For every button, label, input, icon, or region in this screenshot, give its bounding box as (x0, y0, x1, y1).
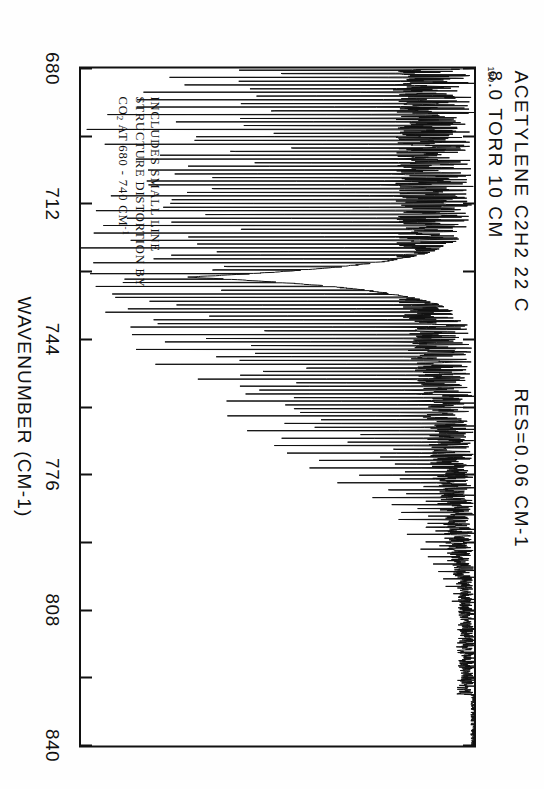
x-axis-tick (79, 541, 92, 543)
x-axis-tick (79, 473, 92, 475)
x-axis-tick (79, 135, 92, 137)
x-axis-tick (463, 744, 476, 746)
x-axis-tick (463, 202, 476, 204)
x-axis-tick-label: 808 (41, 593, 63, 626)
annotation-line-2: STRUCTURE DISTORTION BY (133, 96, 148, 287)
co2-distortion-annotation: INCLUDES SMALL LINE STRUCTURE DISTORTION… (113, 96, 163, 287)
annotation-unit-superscript: -1 (121, 226, 131, 235)
x-axis-tick (463, 135, 476, 137)
x-axis-title: WAVENUMBER (CM-1) (13, 296, 35, 517)
x-axis-tick (463, 676, 476, 678)
figure-page: ACETYLENE C2H2 22 C 8.0 TORR 10 CM RES=0… (0, 0, 544, 789)
x-axis-tick (79, 406, 92, 408)
x-axis-tick (463, 609, 476, 611)
sample-title: ACETYLENE C2H2 22 C (510, 70, 532, 313)
x-axis-tick (463, 473, 476, 475)
annotation-line-3: CO2 AT 680 - 740 CM-1 (113, 96, 134, 287)
x-axis-tick-label: 712 (41, 187, 63, 220)
y-axis-max-label: 130 (486, 66, 496, 82)
rotated-figure-container: ACETYLENE C2H2 22 C 8.0 TORR 10 CM RES=0… (0, 0, 544, 789)
x-axis-tick (463, 338, 476, 340)
resolution-label: RES=0.06 CM-1 (510, 388, 532, 548)
sample-conditions: 8.0 TORR 10 CM (484, 70, 506, 238)
x-axis-tick (79, 744, 92, 746)
annotation-line-1: INCLUDES SMALL LINE (148, 96, 163, 287)
x-axis-tick (79, 270, 92, 272)
annotation-range-text: AT 680 - 740 CM (116, 121, 130, 227)
x-axis-tick (79, 609, 92, 611)
x-axis-tick (463, 541, 476, 543)
x-axis-tick-label: 744 (41, 322, 63, 355)
x-axis-tick (463, 406, 476, 408)
annotation-co2-subscript: 2 (115, 115, 125, 120)
x-axis-tick (79, 676, 92, 678)
x-axis-tick (463, 67, 476, 69)
x-axis-tick-label: 776 (41, 458, 63, 491)
x-axis-tick (79, 202, 92, 204)
x-axis-tick (463, 270, 476, 272)
x-axis-tick (79, 67, 92, 69)
x-axis-tick (79, 338, 92, 340)
x-axis-tick-label: 840 (41, 728, 63, 761)
annotation-co2-text: CO (116, 96, 130, 115)
x-axis-tick-label: 680 (41, 51, 63, 84)
